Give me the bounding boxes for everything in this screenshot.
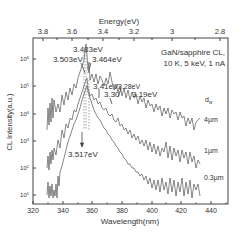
svg-text:3.4: 3.4 bbox=[98, 27, 108, 36]
legend-4um: 4µm bbox=[204, 116, 218, 124]
x-axis-label: Wavelength(nm) bbox=[101, 217, 160, 226]
peak-label-3-30: 3.30 bbox=[104, 90, 120, 99]
svg-text:3: 3 bbox=[170, 27, 174, 36]
svg-text:3.2: 3.2 bbox=[129, 27, 139, 36]
peak-label-3-464: 3.464eV bbox=[92, 55, 122, 64]
svg-text:102: 102 bbox=[20, 164, 30, 172]
svg-text:440: 440 bbox=[205, 207, 217, 214]
svg-text:104: 104 bbox=[20, 110, 30, 118]
svg-text:106: 106 bbox=[20, 55, 30, 63]
sample-annotation: GaN/sapphire CL, 10 K, 5 keV, 1 nA bbox=[161, 48, 226, 68]
y-tick-labels: 106 105 104 103 102 101 bbox=[20, 55, 30, 199]
svg-text:105: 105 bbox=[20, 82, 30, 90]
series-0-3um bbox=[47, 86, 200, 198]
svg-text:2.8: 2.8 bbox=[215, 27, 225, 36]
svg-text:320: 320 bbox=[27, 207, 39, 214]
svg-text:101: 101 bbox=[20, 191, 30, 199]
peak-label-3-28: 3.28eV bbox=[118, 83, 141, 90]
svg-text:400: 400 bbox=[146, 207, 158, 214]
legend-title: dw bbox=[205, 96, 213, 105]
svg-text:3.6: 3.6 bbox=[67, 27, 77, 36]
y-axis-label: CL Intensity(a.u.) bbox=[5, 93, 14, 150]
x-tick-labels: 320 340 360 380 400 420 440 bbox=[27, 207, 217, 214]
svg-text:103: 103 bbox=[20, 137, 30, 145]
series-legend: dw 4µm 1µm 0.3µm bbox=[204, 96, 224, 182]
svg-text:3.8: 3.8 bbox=[38, 27, 48, 36]
svg-text:10 K, 5 keV, 1 nA: 10 K, 5 keV, 1 nA bbox=[163, 59, 225, 68]
svg-text:GaN/sapphire CL,: GaN/sapphire CL, bbox=[161, 48, 225, 57]
x2-tick-labels: 3.8 3.6 3.4 3.2 3 2.8 bbox=[38, 27, 225, 36]
legend-1um: 1µm bbox=[204, 147, 218, 155]
peak-label-3-517: 3.517eV bbox=[68, 150, 98, 159]
legend-0-3um: 0.3µm bbox=[204, 174, 224, 182]
x2-axis-label: Energy(eV) bbox=[99, 17, 140, 26]
svg-text:340: 340 bbox=[57, 207, 69, 214]
cl-spectrum-chart: 320 340 360 380 400 420 440 Wavelength(n… bbox=[0, 0, 242, 238]
peak-label-3-503: 3.503eV bbox=[53, 55, 83, 64]
svg-text:360: 360 bbox=[86, 207, 98, 214]
svg-text:380: 380 bbox=[116, 207, 128, 214]
svg-text:420: 420 bbox=[175, 207, 187, 214]
peak-label-3-19: 3.19eV bbox=[132, 90, 158, 99]
peak-label-3-483: 3.483eV bbox=[73, 45, 103, 54]
